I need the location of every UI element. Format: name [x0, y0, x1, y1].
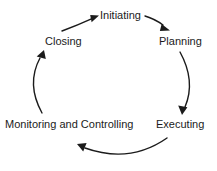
arrowhead-icon	[90, 15, 99, 22]
arrowhead-icon	[77, 143, 87, 151]
arrowhead-icon	[178, 106, 187, 115]
arrowhead-icon	[37, 50, 46, 59]
arrow-planning-to-executing	[178, 52, 189, 115]
arrow-initiating-to-planning	[145, 16, 170, 31]
node-label-planning: Planning	[159, 35, 202, 47]
arrow-executing-to-monitoring	[77, 138, 167, 154]
arrowhead-icon	[160, 24, 170, 31]
cycle-arrows-graphic	[0, 0, 217, 171]
arrow-monitoring-to-closing	[33, 50, 45, 113]
node-label-initiating: Initiating	[100, 9, 141, 21]
arrow-closing-to-initiating	[62, 15, 99, 31]
node-label-closing: Closing	[45, 35, 82, 47]
node-label-executing: Executing	[156, 118, 204, 130]
process-cycle-diagram: Initiating Planning Executing Monitoring…	[0, 0, 217, 171]
node-label-monitoring: Monitoring and Controlling	[5, 118, 133, 130]
